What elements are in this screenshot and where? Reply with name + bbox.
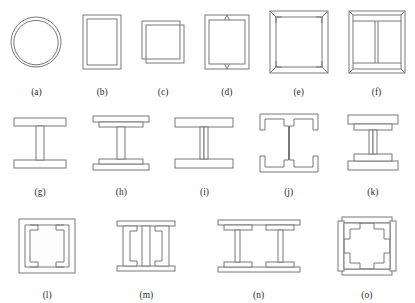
figure-label-l: (l)	[43, 291, 52, 303]
figure-item-e: (e)	[268, 0, 330, 100]
double-channel-back-to-back	[111, 205, 181, 287]
circular-hollow-section	[8, 0, 64, 84]
double-i-section-plated	[216, 205, 302, 287]
figure-label-a: (a)	[31, 88, 42, 101]
rectangular-hollow-section-seam	[203, 0, 251, 84]
box-section-corner-lips	[336, 205, 398, 287]
figure-plate: (a) (b) (c)	[0, 0, 415, 303]
figure-label-h: (h)	[116, 188, 127, 201]
figure-item-g: (g)	[11, 103, 69, 200]
figure-item-j: (j)	[258, 103, 320, 200]
i-section-twin-web	[173, 103, 235, 184]
figure-label-m: (m)	[140, 291, 154, 303]
built-up-box-corner-angles	[268, 0, 330, 84]
figure-item-l: (l)	[17, 205, 77, 303]
built-up-box-center-web	[347, 0, 407, 84]
figure-label-o: (o)	[361, 291, 372, 303]
figure-label-d: (d)	[221, 88, 232, 101]
box-section-inner-lips	[17, 205, 77, 287]
figure-label-c: (c)	[158, 88, 169, 101]
figure-row-3: (l) (m)	[0, 205, 415, 303]
figure-item-b: (b)	[81, 0, 123, 100]
figure-label-j: (j)	[284, 188, 293, 201]
square-hollow-section-offset	[140, 0, 186, 84]
rectangular-hollow-section	[81, 0, 123, 84]
i-section-lipped-flanges	[258, 103, 320, 184]
figure-item-m: (m)	[111, 205, 181, 303]
figure-item-k: (k)	[342, 103, 404, 200]
figure-label-f: (f)	[372, 88, 382, 101]
figure-label-i: (i)	[200, 188, 209, 201]
figure-row-1: (a) (b) (c)	[0, 0, 415, 100]
figure-item-o: (o)	[336, 205, 398, 303]
figure-label-g: (g)	[35, 188, 46, 201]
figure-item-a: (a)	[8, 0, 64, 100]
figure-label-e: (e)	[293, 88, 304, 101]
i-section-plain	[11, 103, 69, 184]
figure-item-h: (h)	[91, 103, 151, 200]
figure-label-k: (k)	[367, 188, 378, 201]
figure-item-i: (i)	[173, 103, 235, 200]
figure-row-2: (g) (h)	[0, 103, 415, 200]
i-section-stacked-flange-plates	[342, 103, 404, 184]
i-section-double-flange	[91, 103, 151, 184]
figure-item-c: (c)	[140, 0, 186, 100]
figure-item-n: (n)	[216, 205, 302, 303]
figure-label-n: (n)	[253, 291, 264, 303]
figure-item-d: (d)	[203, 0, 251, 100]
figure-item-f: (f)	[347, 0, 407, 100]
figure-label-b: (b)	[97, 88, 108, 101]
